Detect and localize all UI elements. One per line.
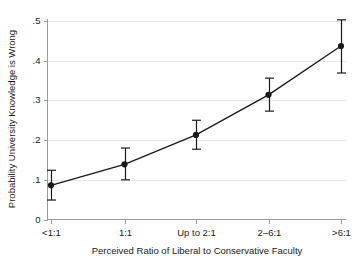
y-tick-label-.3: .3 bbox=[33, 94, 41, 105]
y-tick-label-0: 0 bbox=[35, 214, 40, 225]
chart-background bbox=[0, 0, 359, 263]
x-tick-label-4: >6:1 bbox=[332, 227, 351, 238]
data-point-marker bbox=[48, 182, 54, 188]
x-tick-label-2: Up to 2:1 bbox=[177, 227, 216, 238]
x-tick-label-3: 2–6:1 bbox=[258, 227, 282, 238]
y-tick-label-.4: .4 bbox=[33, 55, 41, 66]
y-tick-label-.5: .5 bbox=[33, 15, 41, 26]
chart-container: .5.4.3.2.10 <1:11:1Up to 2:12–6:1>6:1 Pr… bbox=[0, 0, 359, 263]
data-point-marker bbox=[338, 43, 344, 49]
data-point-marker bbox=[193, 132, 199, 138]
data-point-marker bbox=[265, 92, 271, 98]
x-tick-label-0: <1:1 bbox=[42, 227, 61, 238]
y-tick-label-.2: .2 bbox=[33, 134, 41, 145]
x-axis-title: Perceived Ratio of Liberal to Conservati… bbox=[92, 245, 303, 256]
y-axis-title: Probability University Knowledge is Wron… bbox=[6, 30, 17, 208]
line-chart-with-error-bars: .5.4.3.2.10 <1:11:1Up to 2:12–6:1>6:1 Pr… bbox=[0, 0, 359, 263]
data-point-marker bbox=[121, 161, 127, 167]
y-tick-label-.1: .1 bbox=[33, 174, 41, 185]
x-tick-label-1: 1:1 bbox=[119, 227, 132, 238]
